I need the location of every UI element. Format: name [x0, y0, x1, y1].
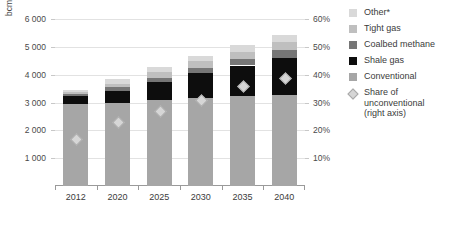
bar-2020[interactable] — [105, 79, 130, 186]
bar-segment-conventional — [230, 96, 255, 186]
x-axis-tick — [222, 186, 223, 190]
bar-segment-tight-gas — [63, 92, 88, 94]
y-axis-tick-label: 2 000 — [0, 126, 46, 135]
y2-axis-tick — [305, 103, 309, 104]
y-axis-tick-label: 3 000 — [0, 99, 46, 108]
gridline — [55, 47, 305, 48]
legend-item[interactable]: Tight gas — [349, 23, 457, 34]
bar-segment-shale-gas — [105, 91, 130, 103]
legend-swatch-icon — [349, 57, 357, 65]
y-axis-tick-label: 1 000 — [0, 154, 46, 163]
legend-swatch-icon — [349, 9, 357, 17]
y-axis-title: bcm — [4, 0, 14, 16]
y2-axis-tick — [305, 75, 309, 76]
x-axis-tick-label: 2040 — [263, 193, 305, 202]
legend-item-label: Share of unconventional (right axis) — [364, 87, 425, 119]
bar-segment-coalbed-methane — [105, 87, 130, 91]
legend-swatch-icon — [349, 73, 357, 81]
legend-item[interactable]: Shale gas — [349, 55, 457, 66]
chart-legend: Other*Tight gasCoalbed methaneShale gasC… — [349, 7, 457, 124]
bar-segment-tight-gas — [230, 52, 255, 59]
y-axis-tick-label: 6 000 — [0, 15, 46, 24]
y-axis-tick — [51, 47, 55, 48]
bar-2040[interactable] — [272, 35, 297, 186]
bar-segment-conventional — [188, 98, 213, 187]
bar-segment-coalbed-methane — [272, 50, 297, 58]
y2-axis-tick-label: 50% — [313, 43, 330, 52]
y2-axis-tick-label: 10% — [313, 154, 330, 163]
legend-item-label: Shale gas — [364, 55, 404, 66]
y2-axis-tick-label: 30% — [313, 99, 330, 108]
gridline — [55, 75, 305, 76]
bar-segment-coalbed-methane — [188, 68, 213, 74]
bar-segment-tight-gas — [147, 72, 172, 78]
x-axis-tick-label: 2035 — [222, 193, 264, 202]
y-axis-tick — [51, 158, 55, 159]
legend-item-label: Tight gas — [364, 23, 401, 34]
y-axis-tick — [51, 19, 55, 20]
bar-segment-other — [147, 67, 172, 72]
x-axis-tick — [263, 186, 264, 190]
legend-swatch-icon — [349, 41, 357, 49]
bar-segment-shale-gas — [147, 82, 172, 99]
bar-2025[interactable] — [147, 67, 172, 186]
bar-segment-shale-gas — [63, 96, 88, 104]
y2-axis-tick — [305, 47, 309, 48]
x-axis-tick — [138, 186, 139, 190]
bar-2030[interactable] — [188, 56, 213, 186]
legend-item[interactable]: Coalbed methane — [349, 39, 457, 50]
y-axis-tick — [51, 130, 55, 131]
legend-item-label: Coalbed methane — [364, 39, 435, 50]
y2-axis-tick — [305, 130, 309, 131]
y2-axis-tick-label: 60% — [313, 15, 330, 24]
y2-axis-tick — [305, 158, 309, 159]
bar-segment-other — [272, 35, 297, 42]
y-axis-tick-label: 4 000 — [0, 71, 46, 80]
x-axis-tick — [304, 186, 305, 190]
bar-segment-other — [230, 45, 255, 51]
plot-area — [55, 19, 305, 186]
legend-swatch-icon — [349, 25, 357, 33]
x-axis-tick-label: 2025 — [138, 193, 180, 202]
x-axis-tick-label: 2020 — [97, 193, 139, 202]
chart-container: bcm Other*Tight gasCoalbed methaneShale … — [0, 0, 459, 225]
y2-axis-tick — [305, 19, 309, 20]
y2-axis-tick-label: 20% — [313, 126, 330, 135]
bar-segment-tight-gas — [272, 42, 297, 50]
bar-segment-coalbed-methane — [230, 59, 255, 66]
x-axis-tick — [97, 186, 98, 190]
legend-diamond-icon — [347, 88, 358, 99]
bar-segment-tight-gas — [105, 84, 130, 88]
legend-item[interactable]: Share of unconventional (right axis) — [349, 87, 457, 119]
bar-segment-conventional — [105, 103, 130, 187]
gridline — [55, 130, 305, 131]
x-axis-tick — [55, 186, 56, 190]
y-axis-tick — [51, 103, 55, 104]
legend-item-label: Conventional — [364, 71, 417, 82]
bar-segment-conventional — [272, 95, 297, 186]
x-axis-tick — [180, 186, 181, 190]
bar-segment-coalbed-methane — [63, 94, 88, 96]
legend-item[interactable]: Conventional — [349, 71, 457, 82]
bar-segment-other — [188, 56, 213, 62]
y-axis-tick-label: 5 000 — [0, 43, 46, 52]
bar-segment-other — [63, 90, 88, 92]
y2-axis-tick-label: 40% — [313, 71, 330, 80]
bar-segment-other — [105, 79, 130, 83]
y-axis-tick — [51, 75, 55, 76]
legend-item-label: Other* — [364, 7, 390, 18]
legend-item[interactable]: Other* — [349, 7, 457, 18]
bar-2035[interactable] — [230, 45, 255, 186]
gridline — [55, 103, 305, 104]
gridline — [55, 19, 305, 20]
bar-segment-coalbed-methane — [147, 78, 172, 82]
bar-segment-tight-gas — [188, 61, 213, 67]
x-axis-tick-label: 2030 — [180, 193, 222, 202]
x-axis-tick-label: 2012 — [55, 193, 97, 202]
gridline — [55, 158, 305, 159]
